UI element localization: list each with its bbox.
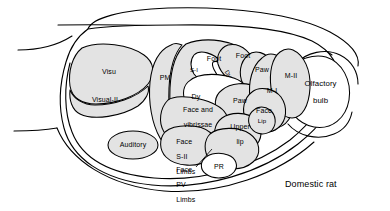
face-sii-limbs-line-1: Face <box>176 138 192 145</box>
region-label-paw-lower: Paw <box>233 97 247 104</box>
upper-lip-line-1: Upper <box>230 123 250 130</box>
region-label-olfactory-bulb: Olfactory bulb <box>295 72 336 113</box>
face-pv-limbs-line-2: PV <box>176 181 186 188</box>
olfactory-bulb-line-2: bulb <box>313 95 328 104</box>
face-vibrissae-line-2: vibrissae <box>184 121 213 128</box>
region-label-pm: PM <box>160 74 171 81</box>
tail-line-left <box>18 36 72 50</box>
olfactory-bulb-line-1: Olfactory <box>304 79 336 88</box>
region-label-s-i: S-I <box>190 67 198 74</box>
region-label-visual-ii: Visual-II <box>92 96 118 103</box>
region-label-lip: Lip <box>258 118 267 125</box>
region-label-face-vibrissae: Face and vibrissae <box>175 99 213 136</box>
region-label-upper-lip: Upper lip <box>222 116 250 153</box>
upper-lip-line-2: lip <box>236 138 243 145</box>
region-label-paw-upper: Paw <box>255 66 269 73</box>
region-label-pr: PR <box>214 163 224 170</box>
rat-cortical-map-figure: Visu Visual-II Auditory PM S-I Foot Foot… <box>0 0 390 211</box>
region-label-face: Face <box>256 107 272 114</box>
region-label-foot-right: Foot <box>236 52 250 59</box>
face-pv-limbs-line-3: Limbs <box>176 196 195 203</box>
region-label-visu: Visu <box>102 68 116 75</box>
region-label-face-pv-limbs: Face PV Limbs <box>168 159 195 210</box>
region-label-m-i: M-I <box>267 87 277 94</box>
face-vibrissae-line-1: Face and <box>183 106 213 113</box>
region-label-foot-upper: Foot <box>207 55 221 62</box>
species-caption: Domestic rat <box>285 180 337 189</box>
face-pv-limbs-line-1: Face <box>176 166 192 173</box>
tail-line-lower <box>14 128 57 131</box>
region-label-auditory: Auditory <box>120 141 146 148</box>
